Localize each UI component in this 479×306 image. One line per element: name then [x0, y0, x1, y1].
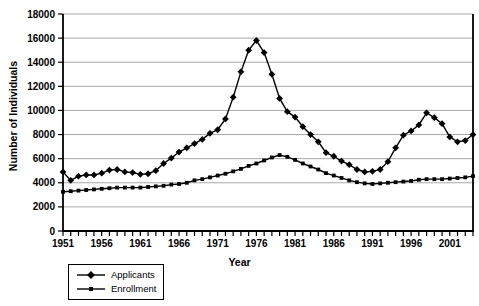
enrollment-marker	[340, 176, 344, 180]
enrollment-marker	[316, 168, 320, 172]
x-tick-label: 1956	[91, 238, 114, 249]
applicants-marker	[238, 68, 245, 75]
applicants-marker	[261, 49, 268, 56]
enrollment-marker	[138, 186, 142, 190]
enrollment-marker	[100, 187, 104, 191]
applicants-marker	[129, 169, 136, 176]
enrollment-marker	[224, 172, 228, 176]
enrollment-marker	[216, 174, 220, 178]
enrollment-marker	[347, 178, 351, 182]
y-tick-label: 0	[49, 226, 55, 237]
enrollment-marker	[146, 185, 150, 189]
enrollment-marker	[108, 186, 112, 190]
applicants-marker	[83, 172, 90, 179]
y-tick-label: 4000	[33, 177, 56, 188]
enrollment-marker	[425, 177, 429, 181]
enrollment-marker	[131, 186, 135, 190]
enrollment-legend-marker-icon	[77, 284, 105, 294]
applicants-marker	[145, 170, 152, 177]
x-tick-label: 1976	[245, 238, 268, 249]
enrollment-marker	[231, 169, 235, 173]
enrollment-marker	[386, 181, 390, 185]
applicants-marker	[98, 170, 105, 177]
applicants-marker	[454, 138, 461, 145]
x-tick-label: 1951	[52, 238, 75, 249]
applicants-marker	[346, 161, 353, 168]
enrollment-marker	[394, 180, 398, 184]
y-axis-title: Number of Individuals	[7, 16, 19, 216]
enrollment-marker	[270, 156, 274, 160]
enrollment-marker	[363, 181, 367, 185]
applicants-marker	[114, 166, 121, 173]
enrollment-marker	[463, 175, 467, 179]
legend-item-applicants: Applicants	[77, 268, 157, 281]
enrollment-marker	[378, 181, 382, 185]
y-tick-label: 18000	[27, 9, 55, 20]
enrollment-marker	[123, 186, 127, 190]
x-tick-label: 1981	[284, 238, 307, 249]
enrollment-marker	[278, 153, 282, 157]
legend-item-enrollment: Enrollment	[77, 282, 157, 295]
enrollment-marker	[239, 167, 243, 171]
enrollment-marker	[254, 162, 258, 166]
y-tick-label: 6000	[33, 153, 56, 164]
enrollment-marker	[262, 159, 266, 163]
applicants-marker	[91, 172, 98, 179]
applicants-marker	[369, 168, 376, 175]
enrollment-marker	[309, 165, 313, 169]
enrollment-marker	[417, 178, 421, 182]
enrollment-marker	[301, 162, 305, 166]
applicants-marker	[361, 169, 368, 176]
legend-label-enrollment: Enrollment	[111, 282, 156, 295]
enrollment-marker	[456, 176, 460, 180]
enrollment-marker	[324, 171, 328, 175]
applicants-legend-marker-icon	[77, 270, 105, 280]
enrollment-marker	[162, 184, 166, 188]
enrollment-marker	[208, 175, 212, 179]
chart-container: 0200040006000800010000120001400016000180…	[0, 0, 479, 306]
x-tick-label: 1961	[129, 238, 152, 249]
applicants-marker	[191, 140, 198, 147]
enrollment-marker	[409, 179, 413, 183]
applicants-marker	[392, 144, 399, 151]
enrollment-marker	[293, 158, 297, 162]
applicants-marker	[276, 95, 283, 102]
enrollment-marker	[169, 183, 173, 187]
applicants-marker	[400, 132, 407, 139]
applicants-marker	[106, 167, 113, 174]
applicants-marker	[137, 171, 144, 178]
x-tick-label: 1986	[323, 238, 346, 249]
y-tick-label: 12000	[27, 81, 55, 92]
enrollment-marker	[185, 181, 189, 185]
enrollment-marker	[448, 177, 452, 181]
enrollment-marker	[440, 177, 444, 181]
y-tick-label: 8000	[33, 129, 56, 140]
x-tick-label: 1971	[207, 238, 230, 249]
enrollment-marker	[177, 182, 181, 186]
y-tick-label: 16000	[27, 33, 55, 44]
enrollment-marker	[285, 155, 289, 159]
enrollment-marker	[77, 189, 81, 193]
enrollment-marker	[332, 174, 336, 178]
enrollment-marker	[371, 182, 375, 186]
enrollment-marker	[200, 177, 204, 181]
y-tick-label: 14000	[27, 57, 55, 68]
x-tick-label: 1991	[361, 238, 384, 249]
legend-label-applicants: Applicants	[111, 268, 155, 281]
applicants-marker	[230, 94, 237, 101]
enrollment-marker	[355, 180, 359, 184]
enrollment-marker	[401, 180, 405, 184]
y-tick-label: 2000	[33, 201, 56, 212]
enrollment-marker	[154, 184, 158, 188]
legend: Applicants Enrollment	[68, 264, 164, 300]
enrollment-marker	[247, 164, 251, 168]
applicants-marker	[121, 169, 128, 176]
enrollment-marker	[432, 177, 436, 181]
applicants-marker	[75, 173, 82, 180]
enrollment-marker	[115, 186, 119, 190]
y-tick-label: 10000	[27, 105, 55, 116]
applicants-marker	[354, 166, 361, 173]
applicants-marker	[183, 144, 190, 151]
x-tick-label: 2001	[439, 238, 462, 249]
enrollment-marker	[84, 188, 88, 192]
